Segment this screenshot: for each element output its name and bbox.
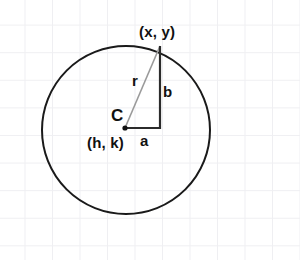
radius-hypotenuse-line xyxy=(125,46,160,128)
point-on-circle-label: (x, y) xyxy=(139,24,175,39)
horizontal-leg-label: a xyxy=(140,133,148,148)
radius-label: r xyxy=(132,73,138,88)
vertical-leg-label: b xyxy=(163,84,172,99)
center-point-dot xyxy=(122,125,127,130)
center-letter-label: C xyxy=(111,107,123,124)
center-coordinates-label: (h, k) xyxy=(87,135,124,150)
circle-diagram-figure: (x, y) r b a C (h, k) xyxy=(0,0,300,260)
